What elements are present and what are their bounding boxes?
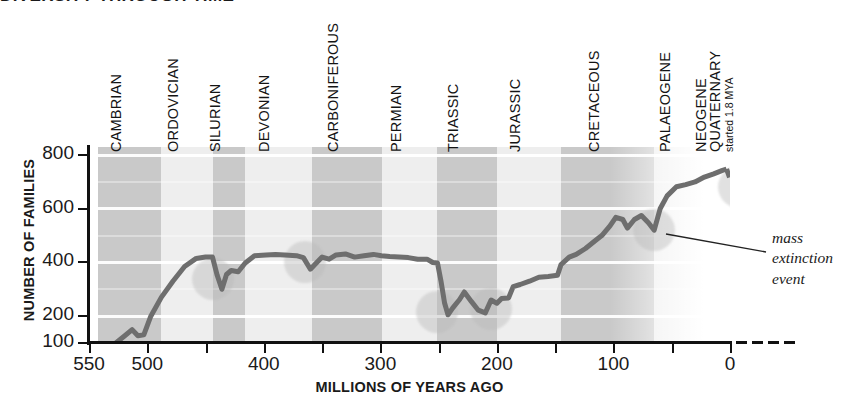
- y-tick-100: [78, 342, 87, 344]
- period-label-quaternary: QUATERNARY started 1.8 MYA: [707, 51, 723, 152]
- period-label-permian: PERMIAN: [388, 85, 404, 152]
- x-tick-550: [89, 344, 91, 353]
- x-tick-0: [730, 344, 732, 353]
- y-tick-label-200: 200: [4, 303, 74, 325]
- x-tick-label-400: 400: [234, 353, 294, 375]
- annotation-line-3: event: [772, 269, 833, 289]
- diversity-through-time-figure: DIVERSITY THROUGH TIME 800600400200100 5…: [0, 0, 857, 407]
- annotation-line-1: mass: [772, 228, 833, 248]
- x-tick-label-100: 100: [583, 353, 643, 375]
- period-name: SILURIAN: [207, 84, 223, 152]
- axis-dash: [768, 341, 779, 344]
- period-label-devonian: DEVONIAN: [256, 75, 272, 152]
- period-label-palaeogene: PALAEOGENE: [657, 52, 673, 152]
- curve-solid: [116, 169, 727, 343]
- x-tick-50: [672, 344, 674, 353]
- period-name: JURASSIC: [507, 79, 523, 152]
- period-name: CAMBRIAN: [108, 74, 124, 152]
- y-axis-title: NUMBER OF FAMILIES: [21, 155, 37, 325]
- x-tick-500: [147, 344, 149, 353]
- x-tick-label-300: 300: [350, 353, 410, 375]
- period-name: CARBONIFEROUS: [325, 23, 341, 152]
- x-tick-200: [497, 344, 499, 353]
- period-name: PERMIAN: [388, 85, 404, 152]
- x-tick-label-0: 0: [700, 353, 760, 375]
- period-name: CRETACEOUS: [586, 50, 602, 152]
- x-tick-label-500: 500: [117, 353, 177, 375]
- diversity-curve: [89, 147, 730, 343]
- period-name: DEVONIAN: [256, 75, 272, 152]
- x-axis-line: [87, 341, 732, 344]
- annotation-line-2: extinction: [772, 248, 833, 268]
- x-tick-350: [322, 344, 324, 353]
- x-axis-title: MILLIONS OF YEARS AGO: [89, 379, 730, 395]
- x-tick-400: [264, 344, 266, 353]
- mass-extinction-annotation: mass extinction event: [772, 228, 833, 289]
- period-name: PALAEOGENE: [657, 52, 673, 152]
- y-axis-line: [87, 145, 90, 345]
- plot-area: [89, 147, 730, 343]
- period-subtitle: started 1.8 MYA: [723, 77, 735, 152]
- y-tick-800: [78, 154, 87, 156]
- period-name: TRIASSIC: [445, 84, 461, 152]
- period-label-ordovician: ORDOVICIAN: [165, 58, 181, 152]
- x-tick-100: [613, 344, 615, 353]
- axis-dash: [784, 341, 795, 344]
- axis-dash: [752, 341, 763, 344]
- x-tick-150: [555, 344, 557, 353]
- period-label-cretaceous: CRETACEOUS: [586, 50, 602, 152]
- x-tick-250: [439, 344, 441, 353]
- y-tick-200: [78, 315, 87, 317]
- y-tick-label-100: 100: [4, 330, 74, 352]
- y-tick-label-600: 600: [4, 196, 74, 218]
- x-tick-label-200: 200: [467, 353, 527, 375]
- period-label-carboniferous: CARBONIFEROUS: [325, 23, 341, 152]
- curve-dashed: [727, 169, 731, 198]
- period-label-silurian: SILURIAN: [207, 84, 223, 152]
- period-label-triassic: TRIASSIC: [445, 84, 461, 152]
- y-tick-600: [78, 208, 87, 210]
- period-name: ORDOVICIAN: [165, 58, 181, 152]
- y-tick-label-800: 800: [4, 142, 74, 164]
- x-axis-dashed-extension: [736, 341, 794, 344]
- y-axis-tick-labels: 800600400200100: [0, 0, 74, 407]
- axis-dash: [736, 341, 747, 344]
- x-tick-label-550: 550: [59, 353, 119, 375]
- x-tick-450: [206, 344, 208, 353]
- x-tick-300: [380, 344, 382, 353]
- period-label-jurassic: JURASSIC: [507, 79, 523, 152]
- y-tick-400: [78, 261, 87, 263]
- y-tick-label-400: 400: [4, 249, 74, 271]
- period-label-cambrian: CAMBRIAN: [108, 74, 124, 152]
